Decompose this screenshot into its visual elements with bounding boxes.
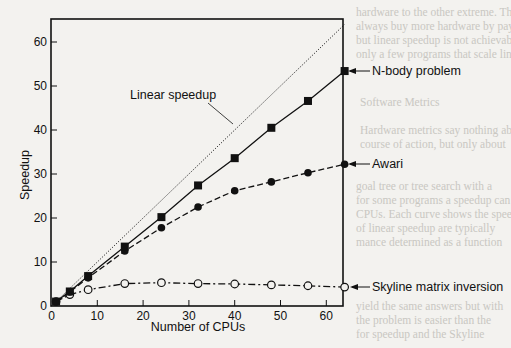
x-tick-label: 50 (274, 309, 288, 323)
speedup-chart: 0102030405060 0102030405060 Number of CP… (0, 0, 511, 348)
open-circle-marker-icon (341, 283, 349, 291)
y-tick-label: 10 (34, 255, 48, 269)
filled-circle-marker-icon (304, 169, 312, 177)
arrowhead-icon (348, 161, 356, 167)
open-circle-marker-icon (231, 280, 239, 288)
open-circle-marker-icon (194, 280, 202, 288)
square-marker-icon (84, 272, 92, 280)
y-tick-label: 40 (34, 123, 48, 137)
square-marker-icon (52, 298, 60, 306)
arrowhead-icon (348, 68, 356, 74)
x-tick-label: 0 (48, 309, 55, 323)
filled-circle-marker-icon (194, 203, 202, 211)
skyline-annotation: Skyline matrix inversion (350, 280, 503, 294)
arrowhead-icon (350, 284, 358, 290)
square-marker-icon (121, 243, 129, 251)
open-circle-marker-icon (84, 286, 92, 294)
linear-speedup-label: Linear speedup (130, 88, 216, 102)
skyline-label: Skyline matrix inversion (372, 280, 503, 294)
square-marker-icon (231, 154, 239, 162)
square-marker-icon (267, 124, 275, 132)
linear-speedup-annotation: Linear speedup (130, 88, 254, 124)
nbody-series (52, 67, 349, 306)
y-axis-label: Speedup (18, 150, 32, 200)
square-marker-icon (304, 97, 312, 105)
filled-circle-marker-icon (158, 224, 166, 232)
square-marker-icon (157, 213, 165, 221)
plot-frame (51, 19, 343, 306)
square-marker-icon (66, 287, 74, 295)
square-marker-icon (194, 181, 202, 189)
filled-circle-marker-icon (231, 187, 239, 195)
y-tick-label: 0 (40, 299, 47, 313)
square-marker-icon (341, 67, 349, 75)
x-tick-label: 60 (320, 309, 334, 323)
y-tick-label: 50 (34, 79, 48, 93)
y-tick-label: 20 (34, 211, 48, 225)
filled-circle-marker-icon (268, 178, 276, 186)
nbody-label: N-body problem (372, 64, 461, 78)
linear-speedup-line (52, 24, 345, 306)
x-tick-label: 20 (136, 309, 150, 323)
x-tick-label: 10 (91, 309, 105, 323)
open-circle-marker-icon (158, 279, 166, 287)
awari-annotation: Awari (348, 157, 403, 171)
awari-label: Awari (372, 157, 403, 171)
open-circle-marker-icon (121, 280, 129, 288)
skyline-series (52, 279, 348, 306)
y-tick-label: 30 (34, 167, 48, 181)
y-tick-label: 60 (34, 35, 48, 49)
open-circle-marker-icon (268, 281, 276, 289)
y-axis-ticks: 0102030405060 (34, 35, 57, 313)
nbody-annotation: N-body problem (348, 64, 461, 78)
filled-circle-marker-icon (341, 161, 349, 169)
open-circle-marker-icon (304, 282, 312, 290)
x-axis-label: Number of CPUs (151, 320, 245, 334)
